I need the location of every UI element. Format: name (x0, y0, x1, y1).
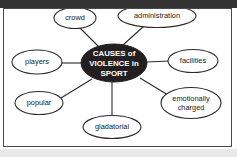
bottom-light-band (0, 149, 237, 157)
top-dark-band (0, 0, 237, 8)
center-node-label-line1: CAUSES of (93, 49, 136, 58)
node-players-label: players (25, 57, 49, 66)
center-node-label-line2: VIOLENCE in (89, 59, 139, 68)
spoke-to-facilities (146, 61, 170, 62)
node-emotionally-charged-label-line2: charged (178, 103, 205, 112)
node-emotionally-charged[interactable]: emotionally charged (161, 88, 221, 119)
node-center-causes-of-violence-in-sport[interactable]: CAUSES of VIOLENCE in SPORT (81, 44, 147, 82)
node-players[interactable]: players (12, 50, 62, 74)
center-node-label-line3: SPORT (100, 69, 127, 78)
spoke-to-popular (61, 79, 92, 98)
node-crowd-label: crowd (65, 13, 85, 22)
screenshot-root: crowd administration players facilities … (0, 0, 237, 157)
node-popular-label: popular (27, 98, 52, 107)
spoke-to-emotionally-charged (140, 78, 168, 95)
node-emotionally-charged-label-line1: emotionally (172, 94, 210, 103)
node-crowd[interactable]: crowd (54, 9, 96, 29)
node-facilities[interactable]: facilities (168, 50, 218, 73)
mind-map-diagram: crowd administration players facilities … (4, 9, 231, 146)
diagram-frame: crowd administration players facilities … (3, 8, 232, 147)
node-popular[interactable]: popular (15, 92, 63, 115)
spoke-to-crowd (80, 28, 100, 48)
node-gladatorial-label: gladatorial (95, 122, 129, 131)
node-administration-label: administration (134, 11, 180, 20)
node-facilities-label: facilities (180, 56, 207, 65)
node-administration[interactable]: administration (118, 9, 196, 28)
node-gladatorial[interactable]: gladatorial (83, 116, 141, 139)
spoke-to-administration (123, 26, 144, 45)
